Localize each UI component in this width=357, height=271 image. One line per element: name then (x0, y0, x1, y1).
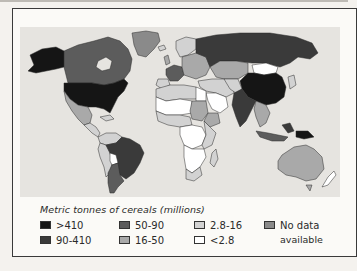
world-map (20, 27, 340, 197)
legend-swatch (264, 221, 275, 229)
legend-label: 50-90 (135, 220, 164, 231)
region-uk (164, 55, 170, 65)
region-madagascar (210, 149, 218, 167)
legend-label: No data (280, 220, 319, 231)
legend-swatch (194, 236, 205, 244)
legend-label: 2.8-16 (210, 220, 242, 231)
region-western-europe (166, 65, 184, 81)
world-map-svg (20, 27, 340, 197)
region-alaska (28, 47, 64, 73)
region-kazakhstan (210, 61, 248, 79)
legend-swatch (40, 221, 51, 229)
legend-item-lt2.8: <2.8 (194, 234, 234, 246)
legend-swatch (119, 221, 130, 229)
legend-swatch (40, 236, 51, 244)
legend-item-90-410: 90-410 (40, 234, 91, 246)
region-caribbean (100, 115, 114, 121)
region-tasmania (306, 185, 312, 191)
region-indonesia-east (282, 123, 294, 133)
region-central-america (84, 123, 100, 137)
legend-no-data-line2: available (280, 234, 323, 245)
legend-label: >410 (56, 220, 83, 231)
region-greenland (132, 31, 160, 57)
page-top-rule (0, 0, 348, 2)
legend-label: <2.8 (210, 235, 234, 246)
region-russia (196, 33, 318, 67)
region-indonesia (256, 131, 288, 141)
legend-title: Metric tonnes of cereals (millions) (40, 204, 205, 215)
legend-item-no-data: No data (264, 219, 319, 231)
region-new-zealand (322, 171, 336, 187)
legend-item-16-50: 16-50 (119, 234, 164, 246)
region-iceland (158, 45, 166, 51)
region-papua (296, 131, 314, 139)
legend-item-gt410: >410 (40, 219, 83, 231)
legend-item-50-90: 50-90 (119, 219, 164, 231)
region-korea-japan (288, 75, 296, 89)
legend-item-2.8-16: 2.8-16 (194, 219, 242, 231)
legend-swatch (194, 221, 205, 229)
region-australia (278, 145, 324, 181)
region-southern-africa (184, 145, 206, 173)
legend-label: 90-410 (56, 235, 91, 246)
region-north-africa (156, 85, 200, 101)
region-sahara (156, 97, 192, 115)
legend-swatch (119, 236, 130, 244)
legend-label: 16-50 (135, 235, 164, 246)
